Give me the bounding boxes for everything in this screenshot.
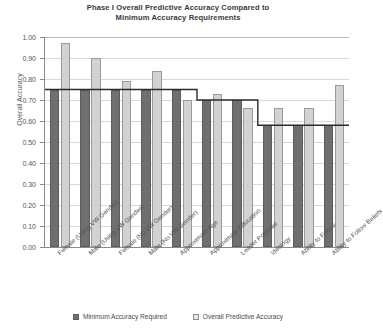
bar-pred (335, 85, 345, 247)
y-axis-tick-label: 0.20 (2, 202, 36, 209)
legend-label: Overall Predictive Accuracy (203, 313, 283, 320)
x-axis-category-labels: Female (Using VW Gender)Male (Using VW G… (0, 249, 356, 309)
chart-title-line-2: Minimum Accuracy Requirements (0, 13, 356, 23)
chart-title-line-1: Phase I Overall Predictive Accuracy Comp… (87, 3, 270, 12)
legend-label: Minimum Accuracy Required (83, 313, 167, 320)
legend-item: Minimum Accuracy Required (73, 313, 167, 320)
y-axis-tick-label: 1.00 (2, 34, 36, 41)
y-axis-tick-label: 0.70 (2, 97, 36, 104)
bar-min (293, 125, 303, 247)
bar-pred (304, 108, 314, 247)
y-axis-tick-label: 0.10 (2, 223, 36, 230)
y-axis-tick-label: 0.90 (2, 55, 36, 62)
y-axis-tick-label: 0.30 (2, 181, 36, 188)
y-axis-tick-label: 0.50 (2, 139, 36, 146)
legend-swatch-min (73, 314, 79, 320)
legend-item: Overall Predictive Accuracy (193, 313, 283, 320)
chart-legend: Minimum Accuracy RequiredOverall Predict… (0, 313, 356, 320)
y-axis-tick-label: 0.40 (2, 160, 36, 167)
legend-swatch-pred (193, 314, 199, 320)
y-axis-tick-label: 0.60 (2, 118, 36, 125)
bar-min (50, 90, 60, 248)
gridline (45, 37, 349, 38)
bar-pred (61, 43, 71, 247)
y-axis-tick-label: 0.80 (2, 76, 36, 83)
plot-area (44, 37, 349, 248)
chart-title: Phase I Overall Predictive Accuracy Comp… (0, 3, 356, 23)
